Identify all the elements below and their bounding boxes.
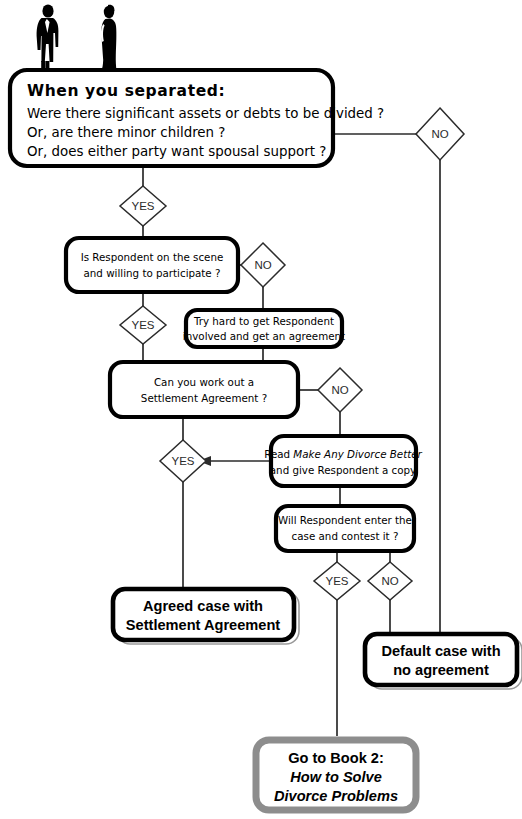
node-try-hard-line-2: involved and get an agreement	[183, 330, 345, 342]
node-respondent-on-scene-shape	[66, 238, 238, 292]
decision-contest-yes: YES	[314, 562, 360, 600]
decision-respondent-no: NO	[241, 243, 285, 287]
node-settlement-agreement-line-2: Settlement Agreement ?	[141, 392, 267, 404]
woman-silhouette	[100, 5, 117, 73]
node-contest-case-shape	[276, 506, 414, 551]
node-read-book-line-1-italic: Make Any Divorce Better	[293, 448, 422, 460]
decision-respondent-no-label: NO	[254, 259, 271, 271]
node-contest-case: Will Respondent enter the case and conte…	[276, 506, 414, 551]
decision-settlement-yes-label: YES	[171, 455, 194, 467]
node-when-you-separated-line-3: Or, does either party want spousal suppo…	[27, 144, 326, 159]
node-when-you-separated: When you separated: Were there significa…	[10, 70, 384, 166]
decision-respondent-yes: YES	[120, 306, 166, 344]
decision-respondent-yes-label: YES	[131, 319, 154, 331]
terminal-default-case-line-1: Default case with	[381, 643, 500, 659]
node-contest-case-line-1: Will Respondent enter the	[278, 514, 412, 526]
decision-contest-no: NO	[368, 562, 412, 600]
decision-settlement-yes: YES	[160, 440, 206, 482]
node-when-you-separated-line-1: Were there significant assets or debts t…	[27, 106, 384, 121]
terminal-default-case-line-2: no agreement	[393, 662, 489, 678]
decision-header-no: NO	[416, 108, 464, 160]
decision-header-yes: YES	[120, 186, 166, 226]
node-read-book-line-1-pre: Read	[264, 448, 293, 460]
terminal-agreed-case: Agreed case with Settlement Agreement	[113, 589, 299, 644]
decision-header-no-label: NO	[431, 128, 448, 140]
node-respondent-on-scene-line-1: Is Respondent on the scene	[81, 251, 224, 263]
decision-header-yes-label: YES	[131, 200, 154, 212]
node-read-book: Read Make Any Divorce Better and give Re…	[264, 436, 422, 486]
decision-contest-no-label: NO	[381, 575, 398, 587]
terminal-go-to-book-2: Go to Book 2: How to Solve Divorce Probl…	[256, 740, 416, 810]
decision-settlement-no: NO	[318, 368, 362, 412]
terminal-agreed-case-line-2: Settlement Agreement	[126, 617, 280, 633]
terminal-default-case: Default case with no agreement	[365, 634, 522, 689]
separated-couple-silhouettes	[36, 4, 117, 72]
man-silhouette	[36, 4, 58, 70]
node-settlement-agreement-line-1: Can you work out a	[154, 376, 254, 388]
flowchart-canvas: When you separated: Were there significa…	[0, 0, 522, 819]
node-try-hard: Try hard to get Respondent involved and …	[183, 310, 345, 347]
node-respondent-on-scene-line-2: and willing to participate ?	[84, 267, 221, 279]
node-respondent-on-scene: Is Respondent on the scene and willing t…	[66, 238, 238, 292]
terminal-go-to-book-2-line-3: Divorce Problems	[274, 788, 398, 804]
terminal-agreed-case-line-1: Agreed case with	[143, 598, 263, 614]
node-read-book-line-2: and give Respondent a copy	[270, 464, 416, 476]
terminal-go-to-book-2-line-1: Go to Book 2:	[288, 750, 384, 766]
node-read-book-shape	[271, 436, 416, 486]
node-when-you-separated-line-2: Or, are there minor children ?	[27, 125, 225, 140]
node-settlement-agreement: Can you work out a Settlement Agreement …	[110, 362, 298, 417]
decision-settlement-no-label: NO	[331, 384, 348, 396]
node-contest-case-line-2: case and contest it ?	[292, 530, 399, 542]
node-settlement-agreement-shape	[110, 362, 298, 417]
decision-contest-yes-label: YES	[325, 575, 348, 587]
terminal-go-to-book-2-line-2: How to Solve	[290, 769, 382, 785]
flowchart-page: When you separated: Were there significa…	[0, 0, 522, 819]
node-read-book-line-1: Read Make Any Divorce Better	[264, 448, 422, 460]
node-when-you-separated-title: When you separated:	[27, 82, 225, 100]
node-try-hard-line-1: Try hard to get Respondent	[193, 315, 334, 327]
